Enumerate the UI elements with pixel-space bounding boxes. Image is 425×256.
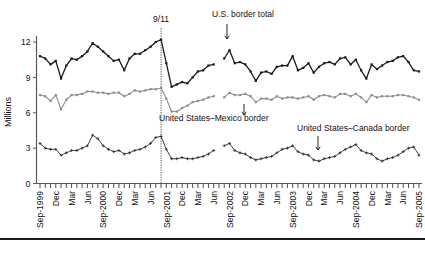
- x-tick-label: Mar: [130, 191, 140, 206]
- annot-total: U.S. border total: [212, 9, 274, 39]
- y-tick-label: 3: [26, 143, 31, 153]
- y-tick-label: 12: [21, 37, 31, 47]
- y-tick-label: 6: [26, 108, 31, 118]
- annot-total-label: U.S. border total: [212, 9, 274, 19]
- footer-rule: [0, 238, 425, 240]
- series-group: [39, 39, 421, 163]
- x-tick-label: Jun: [209, 191, 219, 205]
- x-tick-label: Sep-2002: [225, 191, 235, 228]
- x-tick-label: Mar: [383, 191, 393, 206]
- border-crossings-line-chart: 036912 Sep-1999DecMarJunSep-2000DecMarJu…: [0, 0, 425, 256]
- x-tick-label: Dec: [367, 190, 377, 206]
- x-tick-label: Sep-2004: [351, 191, 361, 228]
- x-tick-label: Jun: [146, 191, 156, 205]
- y-axis: 036912: [21, 36, 36, 189]
- annot-mexico: United States–Mexico border: [159, 104, 269, 123]
- y-tick-label: 0: [26, 179, 31, 189]
- x-tick-label: Jun: [398, 191, 408, 205]
- figure: 036912 Sep-1999DecMarJunSep-2000DecMarJu…: [0, 0, 425, 256]
- x-tick-label: Dec: [114, 190, 124, 206]
- x-tick-label: Dec: [177, 190, 187, 206]
- x-tick-label: Jun: [272, 191, 282, 205]
- x-tick-label: Sep-2003: [288, 191, 298, 228]
- series-us-canada-border: [39, 134, 421, 163]
- y-tick-label: 9: [26, 73, 31, 83]
- x-tick-label: Mar: [67, 191, 77, 206]
- x-tick-label: Sep-1999: [35, 191, 45, 228]
- x-tick-label: Mar: [256, 191, 266, 206]
- x-tick-label: Dec: [240, 190, 250, 206]
- x-tick-label: Jun: [335, 191, 345, 205]
- annotations-group: U.S. border totalUnited States–Mexico bo…: [159, 9, 410, 150]
- event-label-911: 9/11: [153, 14, 169, 24]
- x-tick-label: Mar: [319, 191, 329, 206]
- y-axis-title: Millions: [3, 97, 13, 128]
- annot-mexico-label: United States–Mexico border: [159, 113, 269, 123]
- x-tick-label: Jun: [83, 191, 93, 205]
- x-axis: Sep-1999DecMarJunSep-2000DecMarJunSep-20…: [35, 184, 424, 228]
- annot-canada-label: United States–Canada border: [297, 123, 410, 133]
- series-us-border-total: [39, 39, 420, 88]
- x-tick-label: Mar: [193, 191, 203, 206]
- x-tick-label: Dec: [304, 190, 314, 206]
- x-tick-label: Sep-2000: [98, 191, 108, 228]
- series-us-mexico-border: [39, 87, 420, 113]
- y-axis-label: Millions: [3, 97, 13, 128]
- x-tick-label: Dec: [51, 190, 61, 206]
- x-tick-label: Sep-2005: [414, 191, 424, 228]
- x-tick-label: Sep-2001: [162, 191, 172, 228]
